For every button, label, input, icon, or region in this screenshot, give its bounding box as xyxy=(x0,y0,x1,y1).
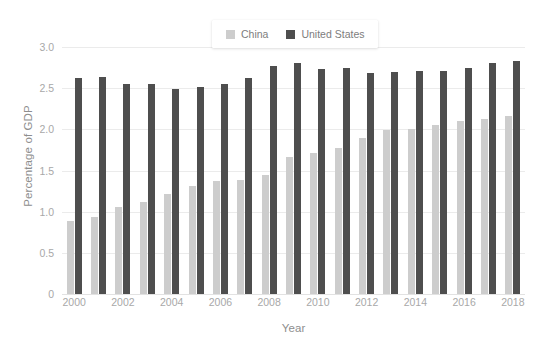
bar-united-states-2003 xyxy=(148,84,155,294)
gridline xyxy=(62,294,525,295)
x-axis-tick-label: 2014 xyxy=(404,297,427,308)
x-axis-title: Year xyxy=(62,322,525,334)
legend-label: China xyxy=(241,29,268,40)
x-axis-tick-label: 2012 xyxy=(355,297,378,308)
legend-swatch-icon xyxy=(286,30,295,39)
bar-china-2018 xyxy=(505,116,512,294)
bar-united-states-2006 xyxy=(221,84,228,294)
bar-united-states-2016 xyxy=(465,68,472,294)
bar-china-2003 xyxy=(140,202,147,294)
y-axis-title: Percentage of GDP xyxy=(22,56,34,256)
bar-chart: Percentage of GDP 3.02.52.01.51.00.50 20… xyxy=(0,0,545,348)
bar-united-states-2008 xyxy=(270,66,277,294)
bar-china-2008 xyxy=(262,175,269,294)
y-axis-tick-label: 0.5 xyxy=(39,248,54,259)
bar-united-states-2007 xyxy=(245,78,252,294)
bar-china-2009 xyxy=(286,157,293,294)
x-axis-tick-label: 2008 xyxy=(257,297,280,308)
x-axis-tick-label: 2004 xyxy=(160,297,183,308)
bar-united-states-2017 xyxy=(489,63,496,294)
y-axis-tick-label: 1.5 xyxy=(39,165,54,176)
y-axis-tick-label: 3.0 xyxy=(39,42,54,53)
bar-china-2016 xyxy=(457,121,464,294)
bar-china-2007 xyxy=(237,180,244,294)
bar-united-states-2000 xyxy=(75,78,82,294)
plot-area: 3.02.52.01.51.00.50 xyxy=(62,47,525,294)
y-axis-tick-label: 2.0 xyxy=(39,124,54,135)
bar-china-2014 xyxy=(408,129,415,294)
x-axis-tick-label: 2006 xyxy=(209,297,232,308)
bar-united-states-2004 xyxy=(172,89,179,294)
bar-united-states-2011 xyxy=(343,68,350,294)
bar-united-states-2015 xyxy=(440,71,447,294)
bar-united-states-2013 xyxy=(391,72,398,294)
bar-china-2005 xyxy=(189,186,196,294)
legend-item-united-states[interactable]: United States xyxy=(286,29,364,40)
x-axis-tick-label: 2016 xyxy=(452,297,475,308)
bar-china-2012 xyxy=(359,138,366,294)
bar-united-states-2012 xyxy=(367,73,374,294)
legend-label: United States xyxy=(301,29,364,40)
bar-china-2002 xyxy=(115,207,122,294)
x-axis-tick-label: 2010 xyxy=(306,297,329,308)
bar-united-states-2005 xyxy=(197,87,204,294)
x-axis-tick-label: 2000 xyxy=(62,297,85,308)
bar-united-states-2001 xyxy=(99,77,106,294)
bar-united-states-2002 xyxy=(123,84,130,294)
legend-item-china[interactable]: China xyxy=(226,29,268,40)
x-axis-tick-label: 2018 xyxy=(501,297,524,308)
bar-china-2004 xyxy=(164,194,171,294)
bar-china-2001 xyxy=(91,217,98,294)
bar-china-2017 xyxy=(481,119,488,294)
x-axis-tick-labels: 2000200220042006200820102012201420162018 xyxy=(62,297,525,315)
bar-china-2000 xyxy=(67,221,74,294)
bar-china-2013 xyxy=(383,130,390,294)
bar-united-states-2014 xyxy=(416,71,423,294)
x-axis-tick-label: 2002 xyxy=(111,297,134,308)
bar-china-2015 xyxy=(432,125,439,294)
bar-united-states-2010 xyxy=(318,69,325,294)
bar-china-2006 xyxy=(213,181,220,294)
y-axis-tick-label: 1.0 xyxy=(39,206,54,217)
bars-layer xyxy=(62,47,525,294)
bar-china-2011 xyxy=(335,148,342,294)
bar-united-states-2009 xyxy=(294,63,301,294)
y-axis-tick-label: 0 xyxy=(48,289,54,300)
bar-china-2010 xyxy=(310,153,317,294)
y-axis-tick-label: 2.5 xyxy=(39,83,54,94)
bar-united-states-2018 xyxy=(513,61,520,294)
chart-legend: ChinaUnited States xyxy=(212,20,378,48)
legend-swatch-icon xyxy=(226,30,235,39)
